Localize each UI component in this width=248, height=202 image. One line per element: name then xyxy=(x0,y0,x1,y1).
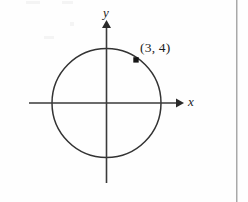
data-point-marker xyxy=(133,57,138,62)
x-axis-label: x xyxy=(188,95,194,108)
x-axis-arrowhead-icon xyxy=(176,99,184,108)
point-coordinate-label: (3, 4) xyxy=(140,41,170,55)
figure-canvas: y x (3, 4) xyxy=(0,0,248,202)
page-edge-rule-shadow xyxy=(237,0,238,202)
coordinate-plot xyxy=(0,0,248,202)
y-axis-arrowhead-icon xyxy=(102,20,111,28)
y-axis-label: y xyxy=(103,6,109,19)
